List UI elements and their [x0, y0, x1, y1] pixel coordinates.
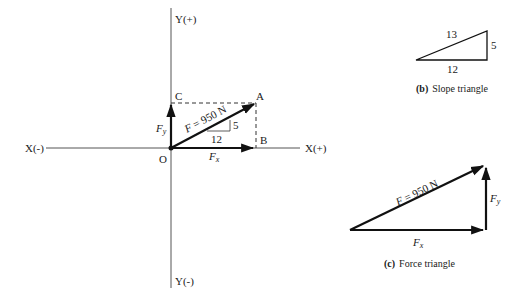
- point-b-label: B: [260, 134, 267, 146]
- point-c-label: C: [175, 90, 182, 102]
- x-neg-label: X(-): [25, 142, 44, 155]
- point-a-label: A: [256, 90, 264, 102]
- y-neg-label: Y(-): [175, 275, 194, 288]
- fx-label: Fx: [208, 150, 220, 164]
- force-triangle-caption: (c)Force triangle: [384, 258, 455, 270]
- slope-rise-label: 5: [233, 119, 239, 131]
- slope-indicator: 5 12: [207, 119, 239, 145]
- force-resolution-diagram: X(-) X(+) Y(+) Y(-) 5 12 O C A B Fy Fx F…: [0, 0, 519, 301]
- origin-dot: [169, 146, 174, 151]
- force-triangle-figure: F = 950 N Fx Fy (c)Force triangle: [350, 166, 501, 270]
- force-triangle-f-label: F = 950 N: [393, 177, 440, 208]
- x-pos-label: X(+): [305, 142, 327, 155]
- rise-label: 5: [491, 39, 497, 51]
- hypotenuse-label: 13: [446, 28, 458, 40]
- y-pos-label: Y(+): [175, 13, 197, 26]
- slope-triangle-caption: (b)Slope triangle: [416, 83, 489, 95]
- force-triangle-fx-label: Fx: [412, 236, 424, 250]
- point-o-label: O: [159, 153, 167, 165]
- slope-triangle-figure: 13 5 12 (b)Slope triangle: [416, 28, 497, 95]
- run-label: 12: [447, 63, 458, 75]
- force-triangle-fy-label: Fy: [489, 192, 501, 206]
- fy-label: Fy: [155, 122, 167, 136]
- slope-run-label: 12: [211, 133, 222, 145]
